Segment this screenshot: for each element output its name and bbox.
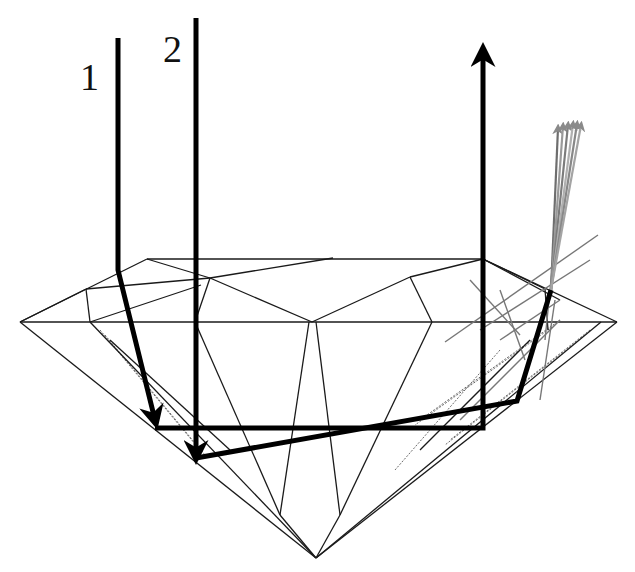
crown-facets xyxy=(20,258,617,330)
ray-1-incoming xyxy=(118,38,155,420)
crown-facet-edge xyxy=(410,277,432,322)
crown-facet-edge xyxy=(410,259,483,277)
ray-label-1: 1 xyxy=(80,58,99,96)
pavilion-facet-edge xyxy=(280,515,316,558)
ray-label-2: 2 xyxy=(163,30,182,68)
pavilion-facet-edge xyxy=(110,340,230,450)
crown-facet-edge xyxy=(147,259,210,278)
ray-1-reflected-exit xyxy=(155,52,483,428)
pavilion-facet-edge xyxy=(316,515,340,558)
pavilion-facets xyxy=(20,322,617,558)
crown-facet-edge xyxy=(86,289,90,322)
crown-facet-edge xyxy=(210,278,312,322)
crown-facet-edge xyxy=(20,289,86,322)
ray-2-leaking-path xyxy=(196,290,551,458)
pavilion-facet-edge xyxy=(316,322,601,558)
pavilion-facet-edge xyxy=(90,322,316,558)
crown-facet-edge xyxy=(312,277,410,322)
pavilion-facet-edge xyxy=(280,322,309,515)
pavilion-facet-edge xyxy=(195,322,280,515)
pavilion-facet-edge xyxy=(20,322,316,558)
pavilion-facet-edge xyxy=(316,322,340,515)
pavilion-facet-edge xyxy=(316,322,617,558)
scattered-ray-line xyxy=(500,300,560,340)
scattered-ray-line xyxy=(480,260,590,330)
crown-facet-edge xyxy=(90,285,201,322)
crown-facet-edge xyxy=(210,258,333,278)
light-ray-paths xyxy=(118,18,551,458)
dispersed-exit-rays xyxy=(551,124,581,290)
